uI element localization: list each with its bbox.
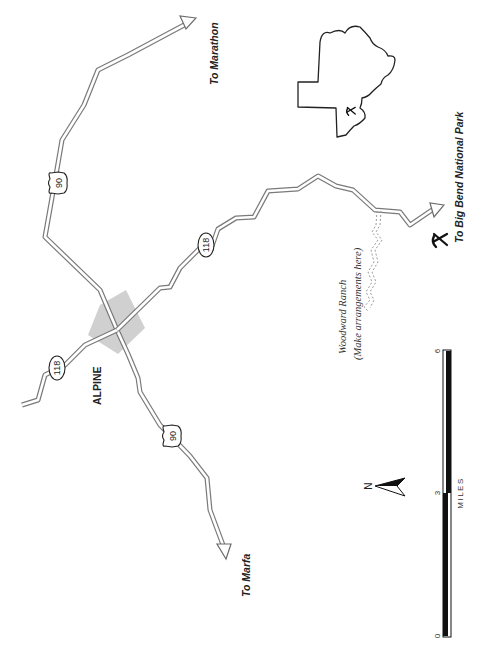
rock-hammer-icon <box>433 234 447 247</box>
sh118-east-road <box>117 176 444 330</box>
sh118-east-shield: 118 <box>198 233 214 257</box>
to-marfa-label: To Marfa <box>240 553 252 597</box>
svg-text:118: 118 <box>201 238 211 252</box>
scale-bar: 0 3 6 MILES <box>433 348 465 638</box>
scale-tick-0: 0 <box>433 633 442 638</box>
scale-tick-6: 6 <box>433 348 442 353</box>
scale-unit-label: MILES <box>456 477 465 509</box>
alpine-town-area <box>88 290 145 354</box>
to-big-bend-label: To Big Bend National Park <box>453 110 465 243</box>
big-bend-arrow-icon <box>430 203 444 217</box>
ranch-note-label: (Make arrangements here) <box>352 247 364 360</box>
north-label: N <box>363 482 374 489</box>
svg-text:90: 90 <box>168 431 178 441</box>
svg-text:90: 90 <box>54 178 64 188</box>
map-canvas: 90 90 118 118 ALPINE To Marathon To Marf… <box>0 0 482 646</box>
svg-text:118: 118 <box>52 361 62 375</box>
woodward-ranch-label: Woodward Ranch <box>337 280 348 354</box>
us90-south-shield: 90 <box>163 425 182 447</box>
us90-north-shield: 90 <box>49 172 68 194</box>
alpine-label: ALPINE <box>91 366 103 405</box>
sh118-west-shield: 118 <box>49 356 65 380</box>
marfa-arrow-icon <box>217 544 231 559</box>
to-marathon-label: To Marathon <box>208 22 220 85</box>
inset-county-map <box>298 26 395 137</box>
north-arrow-icon: N <box>363 478 405 496</box>
woodward-ranch-road <box>364 211 378 312</box>
scale-tick-3: 3 <box>433 490 442 495</box>
